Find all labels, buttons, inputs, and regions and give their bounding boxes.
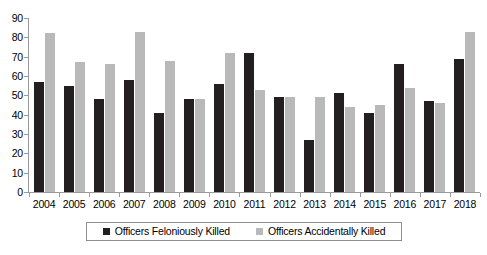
bar-accident-2018	[465, 32, 475, 192]
legend-item-accidentally-killed: Officers Accidentally Killed	[256, 226, 385, 237]
x-axis-tick-mark	[360, 193, 361, 197]
bar-accident-2017	[435, 103, 445, 192]
x-axis-tick-labels: 2004200520062007200820092010201120122013…	[29, 198, 480, 214]
x-axis-label-2007: 2007	[119, 198, 149, 210]
bar-accident-2011	[255, 90, 265, 192]
bar-felony-2009	[184, 99, 194, 192]
bar-felony-2011	[244, 53, 254, 192]
legend-label-accident: Officers Accidentally Killed	[268, 226, 385, 237]
bar-felony-2018	[454, 59, 464, 192]
bar-accident-2007	[135, 32, 145, 192]
bar-accident-2009	[195, 99, 205, 192]
x-axis-tick-mark	[89, 193, 90, 197]
x-axis-tick-mark	[450, 193, 451, 197]
x-axis-tick-mark	[179, 193, 180, 197]
x-axis-label-2017: 2017	[420, 198, 450, 210]
y-axis-tick-90: 90	[12, 13, 23, 23]
bar-felony-2017	[424, 101, 434, 192]
y-axis-tick-mark	[24, 76, 29, 77]
legend-swatch-icon-accident	[256, 228, 263, 235]
x-axis-tick-mark	[300, 193, 301, 197]
x-axis-tick-mark	[390, 193, 391, 197]
grouped-bar-chart: 9080706050403020100 20042005200620072008…	[0, 0, 487, 255]
x-axis-label-2004: 2004	[29, 198, 59, 210]
bar-series-container	[29, 0, 480, 192]
y-axis-tick-0: 0	[17, 187, 23, 197]
bar-felony-2013	[304, 140, 314, 192]
bar-accident-2006	[105, 64, 115, 192]
bar-felony-2008	[154, 113, 164, 192]
legend-item-feloniously-killed: Officers Feloniously Killed	[103, 226, 230, 237]
y-axis-tick-mark	[24, 18, 29, 19]
y-axis-tick-50: 50	[12, 90, 23, 100]
x-axis-tick-mark	[270, 193, 271, 197]
y-axis-tick-40: 40	[12, 110, 23, 120]
y-axis-tick-labels: 9080706050403020100	[0, 0, 26, 200]
x-axis-label-2006: 2006	[89, 198, 119, 210]
y-axis-tick-mark	[24, 115, 29, 116]
bar-accident-2005	[75, 62, 85, 192]
y-axis-tick-70: 70	[12, 52, 23, 62]
x-axis-tick-mark	[59, 193, 60, 197]
bar-accident-2008	[165, 61, 175, 192]
bar-felony-2015	[364, 113, 374, 192]
x-axis-label-2012: 2012	[270, 198, 300, 210]
bar-felony-2016	[394, 64, 404, 192]
x-axis-tick-mark	[239, 193, 240, 197]
y-axis-tick-mark	[24, 37, 29, 38]
legend-swatch-icon-felony	[103, 228, 110, 235]
x-axis-tick-mark	[420, 193, 421, 197]
x-axis-tick-mark	[149, 193, 150, 197]
bar-felony-2004	[34, 82, 44, 192]
y-axis-tick-mark	[24, 173, 29, 174]
y-axis-tick-80: 80	[12, 32, 23, 42]
y-axis-tick-mark	[24, 153, 29, 154]
x-axis-label-2005: 2005	[59, 198, 89, 210]
bar-felony-2014	[334, 93, 344, 192]
legend-label-felony: Officers Feloniously Killed	[115, 226, 230, 237]
x-axis-label-2008: 2008	[149, 198, 179, 210]
x-axis-label-2011: 2011	[239, 198, 269, 210]
y-axis-tick-mark	[24, 57, 29, 58]
bar-accident-2004	[45, 33, 55, 192]
x-axis-line	[28, 192, 480, 193]
x-axis-label-2010: 2010	[209, 198, 239, 210]
bar-felony-2007	[124, 80, 134, 192]
x-axis-label-2013: 2013	[300, 198, 330, 210]
x-axis-label-2015: 2015	[360, 198, 390, 210]
x-axis-tick-mark	[209, 193, 210, 197]
x-axis-tick-mark	[119, 193, 120, 197]
x-axis-tick-mark	[480, 193, 481, 197]
bar-accident-2015	[375, 105, 385, 192]
y-axis-tick-60: 60	[12, 71, 23, 81]
x-axis-tick-mark	[29, 193, 30, 197]
bar-felony-2006	[94, 99, 104, 192]
y-axis-tick-10: 10	[12, 168, 23, 178]
plot-area: 9080706050403020100 20042005200620072008…	[0, 0, 487, 200]
x-axis-tick-mark	[330, 193, 331, 197]
x-axis-label-2014: 2014	[330, 198, 360, 210]
bar-accident-2016	[405, 88, 415, 192]
bar-accident-2013	[315, 97, 325, 192]
y-axis-tick-30: 30	[12, 129, 23, 139]
bar-accident-2014	[345, 107, 355, 192]
x-axis-label-2009: 2009	[179, 198, 209, 210]
bar-felony-2005	[64, 86, 74, 192]
bar-accident-2012	[285, 97, 295, 192]
chart-legend: Officers Feloniously Killed Officers Acc…	[86, 222, 402, 241]
x-axis-label-2016: 2016	[390, 198, 420, 210]
y-axis-tick-mark	[24, 134, 29, 135]
y-axis-tick-mark	[24, 95, 29, 96]
bar-felony-2010	[214, 84, 224, 192]
y-axis-tick-20: 20	[12, 148, 23, 158]
bar-felony-2012	[274, 97, 284, 192]
bar-accident-2010	[225, 53, 235, 192]
x-axis-label-2018: 2018	[450, 198, 480, 210]
